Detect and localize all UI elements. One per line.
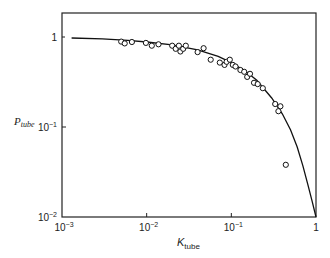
data-point-marker [183,43,188,48]
data-point-marker [233,64,238,69]
data-point-marker [195,50,200,55]
x-axis-label: Ktube [177,236,200,251]
data-point-marker [247,71,252,76]
plot-frame [62,13,316,217]
data-point-marker [278,104,283,109]
data-point-marker [129,39,134,44]
data-point-marker [255,82,260,87]
x-axis-ticks: 10−310−210−11 [54,213,319,233]
x-tick-label: 10−1 [224,221,243,233]
model-curve [72,38,316,217]
y-axis-label: Ptube [13,115,35,129]
data-point-marker [201,46,206,51]
data-point-marker [260,86,265,91]
data-point-marker [156,42,161,47]
data-points [119,39,289,167]
data-point-marker [242,69,247,74]
y-tick-label: 10−1 [38,121,57,133]
data-point-marker [149,43,154,48]
chart-canvas: 10−310−210−11 110−110−2 Ptube Ktube [0,0,330,258]
y-tick-label: 1 [51,32,57,43]
data-point-marker [283,162,288,167]
x-tick-label: 10−2 [139,221,158,233]
x-tick-label: 1 [313,222,319,233]
data-point-marker [143,40,148,45]
data-point-marker [273,101,278,106]
data-point-marker [227,57,232,62]
data-point-marker [208,57,213,62]
data-point-marker [122,41,127,46]
x-tick-label: 10−3 [54,221,73,233]
